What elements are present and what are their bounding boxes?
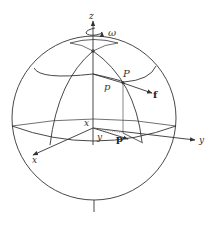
label-z: z — [88, 11, 94, 21]
y-axis — [93, 128, 195, 140]
latitude-circle-back — [70, 40, 118, 44]
label-x-axis: x — [32, 155, 37, 165]
meridian-right — [93, 51, 142, 142]
meridian-back-left — [70, 43, 93, 51]
label-y-axis: y — [198, 135, 205, 145]
label-vector-p: p — [116, 133, 123, 144]
label-omega: ω — [108, 27, 116, 38]
label-origin-x: x — [84, 118, 89, 128]
label-p-latitude: p — [104, 81, 111, 92]
x-axis — [33, 128, 93, 155]
label-origin-y: y — [96, 132, 103, 142]
sphere-outline — [12, 36, 176, 200]
meridian-back — [93, 43, 118, 51]
label-f: f — [153, 89, 158, 100]
rotation-arrow-icon — [86, 28, 102, 35]
latitude-circle-front — [34, 66, 156, 82]
equator-back — [12, 119, 176, 126]
force-vector-f — [123, 83, 152, 93]
label-P: P — [122, 68, 130, 79]
sphere-diagram: z ω P p f x y p x y — [0, 0, 214, 231]
